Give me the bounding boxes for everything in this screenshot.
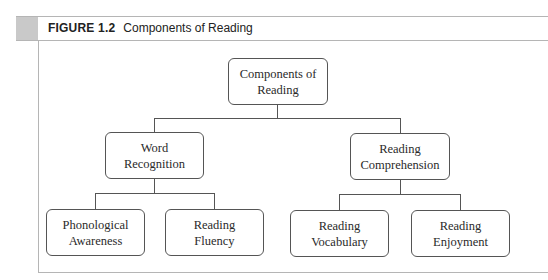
connector-level2-bar bbox=[154, 118, 401, 119]
node-text-line1: Components of bbox=[240, 67, 317, 81]
node-text-line2: Comprehension bbox=[360, 158, 439, 172]
connector-comp-up bbox=[400, 118, 401, 133]
node-components-of-reading: Components ofReading bbox=[228, 58, 328, 105]
node-text-line2: Fluency bbox=[194, 234, 234, 248]
connector-word-bar bbox=[95, 193, 215, 194]
node-text-line1: Reading bbox=[440, 219, 482, 233]
connector-word-down bbox=[154, 179, 155, 193]
node-reading-vocabulary: ReadingVocabulary bbox=[290, 210, 389, 257]
node-reading-comprehension: ReadingComprehension bbox=[350, 133, 450, 180]
connector-comp-bar bbox=[339, 194, 461, 195]
connector-comp-down bbox=[400, 180, 401, 194]
connector-fluency-up bbox=[214, 193, 215, 209]
connector-vocab-up bbox=[339, 194, 340, 210]
node-phonological-awareness: PhonologicalAwareness bbox=[46, 209, 145, 256]
node-text-line1: Reading bbox=[379, 142, 421, 156]
node-text-line2: Vocabulary bbox=[311, 235, 368, 249]
figure-label: FIGURE 1.2 bbox=[48, 21, 115, 35]
node-text-line2: Awareness bbox=[69, 234, 123, 248]
node-word-recognition: WordRecognition bbox=[105, 132, 204, 179]
connector-enjoy-up bbox=[460, 194, 461, 210]
node-text-line1: Reading bbox=[319, 219, 361, 233]
frame-left-rule bbox=[38, 40, 39, 272]
node-text-line1: Reading bbox=[194, 218, 236, 232]
figure-header-tab bbox=[16, 17, 38, 40]
connector-root-down bbox=[277, 105, 278, 118]
figure-caption: FIGURE 1.2Components of Reading bbox=[48, 17, 253, 40]
node-text-line2: Enjoyment bbox=[433, 235, 488, 249]
node-text-line1: Phonological bbox=[63, 218, 129, 232]
connector-phon-up bbox=[95, 193, 96, 209]
node-text-line2: Reading bbox=[257, 83, 299, 97]
figure-title: Components of Reading bbox=[123, 21, 252, 35]
node-reading-enjoyment: ReadingEnjoyment bbox=[411, 210, 510, 257]
node-text-line2: Recognition bbox=[124, 157, 185, 171]
frame-header-rule bbox=[16, 40, 548, 41]
connector-word-up bbox=[154, 118, 155, 132]
node-reading-fluency: ReadingFluency bbox=[165, 209, 264, 256]
frame-bottom-rule bbox=[38, 272, 548, 273]
node-text-line1: Word bbox=[141, 141, 168, 155]
